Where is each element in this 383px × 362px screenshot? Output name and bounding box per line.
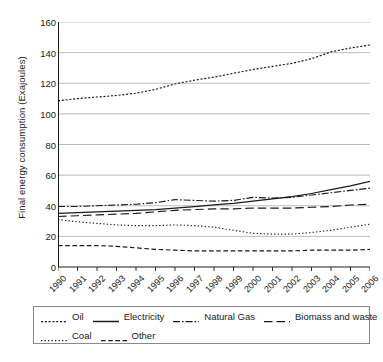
legend-swatch-icon (41, 312, 67, 321)
line-chart: Final energy consumption (Exajoules) 020… (0, 0, 383, 362)
legend-item-other[interactable]: Other (101, 330, 156, 341)
legend-row: CoalOther (34, 326, 369, 345)
legend-swatch-icon (93, 312, 119, 321)
legend-item-coal[interactable]: Coal (41, 330, 92, 341)
legend-label: Electricity (124, 311, 165, 322)
legend-swatch-icon (41, 331, 67, 340)
legend-label: Natural Gas (204, 311, 255, 322)
legend-label: Coal (72, 330, 92, 341)
legend-label: Biomass and waste (295, 311, 377, 322)
legend-label: Oil (72, 311, 84, 322)
legend-item-electricity[interactable]: Electricity (93, 311, 165, 322)
legend-item-biomass-and-waste[interactable]: Biomass and waste (264, 311, 377, 322)
legend-item-natural-gas[interactable]: Natural Gas (173, 311, 255, 322)
legend-label: Other (132, 330, 156, 341)
legend-swatch-icon (264, 312, 290, 321)
legend-swatch-icon (173, 312, 199, 321)
legend-swatch-icon (101, 331, 127, 340)
legend-row: OilElectricityNatural GasBiomass and was… (34, 307, 369, 326)
legend-item-oil[interactable]: Oil (41, 311, 84, 322)
chart-legend: OilElectricityNatural GasBiomass and was… (33, 306, 370, 344)
